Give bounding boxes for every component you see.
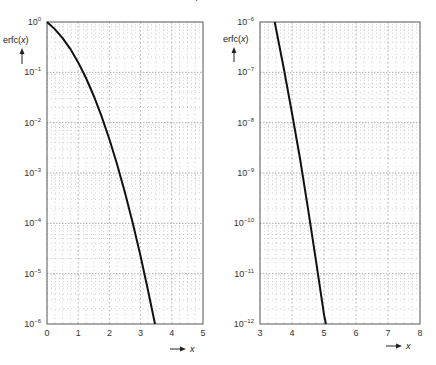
right-x-axis-label: x: [405, 341, 411, 351]
left-x-axis-label: x: [189, 344, 195, 354]
right-ylabel-text: erfc(: [223, 34, 241, 44]
right-x-arrow-icon: [386, 344, 402, 349]
x-tick-label: 0: [44, 328, 49, 338]
y-tick-label: 10−8: [237, 117, 255, 128]
y-tick-label: 10−1: [24, 66, 42, 77]
left-ylabel-close: ): [26, 35, 29, 45]
x-tick-label: 6: [353, 328, 358, 338]
right-ylabel-close: ): [246, 34, 249, 44]
left-plot: 10010−110−210−310−410−510−6 012345 erfc(…: [3, 16, 206, 354]
y-tick-label: 10−9: [237, 167, 255, 178]
y-tick-label: 10−3: [24, 167, 42, 178]
left-y-tick-labels: 10010−110−210−310−410−510−6: [24, 16, 42, 329]
right-x-tick-labels: 345678: [257, 328, 422, 338]
y-tick-label: 10−12: [234, 318, 255, 329]
left-y-arrow-icon: [20, 48, 25, 64]
right-y-tick-labels: 10−610−710−810−910−1010−1110−12: [234, 16, 255, 329]
left-grid: [47, 22, 203, 324]
y-tick-label: 10−6: [237, 16, 255, 27]
x-tick-label: 3: [138, 328, 143, 338]
left-x-arrow-icon: [170, 347, 186, 352]
y-tick-label: 100: [28, 16, 42, 27]
x-tick-label: 5: [200, 328, 205, 338]
x-tick-label: 5: [321, 328, 326, 338]
x-tick-label: 1: [76, 328, 81, 338]
y-tick-label: 10−11: [234, 268, 254, 279]
y-tick-label: 10−6: [24, 318, 42, 329]
x-tick-label: 8: [417, 328, 422, 338]
x-tick-label: 3: [257, 328, 262, 338]
left-ylabel-text: erfc(: [3, 35, 21, 45]
right-y-arrow-icon: [232, 47, 237, 62]
cropped-glyph: ·: [195, 0, 198, 5]
y-tick-label: 10−7: [237, 66, 255, 77]
left-x-tick-labels: 012345: [44, 328, 205, 338]
x-tick-label: 2: [107, 328, 112, 338]
left-y-axis-label: erfc(x): [3, 35, 29, 45]
right-plot: 10−610−710−810−910−1010−1110−12 345678 e…: [223, 16, 423, 351]
y-tick-label: 10−10: [234, 217, 255, 228]
x-tick-label: 4: [169, 328, 174, 338]
x-tick-label: 4: [289, 328, 294, 338]
y-tick-label: 10−5: [24, 268, 42, 279]
right-y-axis-label: erfc(x): [223, 34, 249, 44]
y-tick-label: 10−2: [24, 117, 42, 128]
x-tick-label: 7: [385, 328, 390, 338]
erfc-figure: · 10010−110−210−310−410−510−6 012345 erf…: [0, 0, 436, 365]
y-tick-label: 10−4: [24, 217, 42, 228]
